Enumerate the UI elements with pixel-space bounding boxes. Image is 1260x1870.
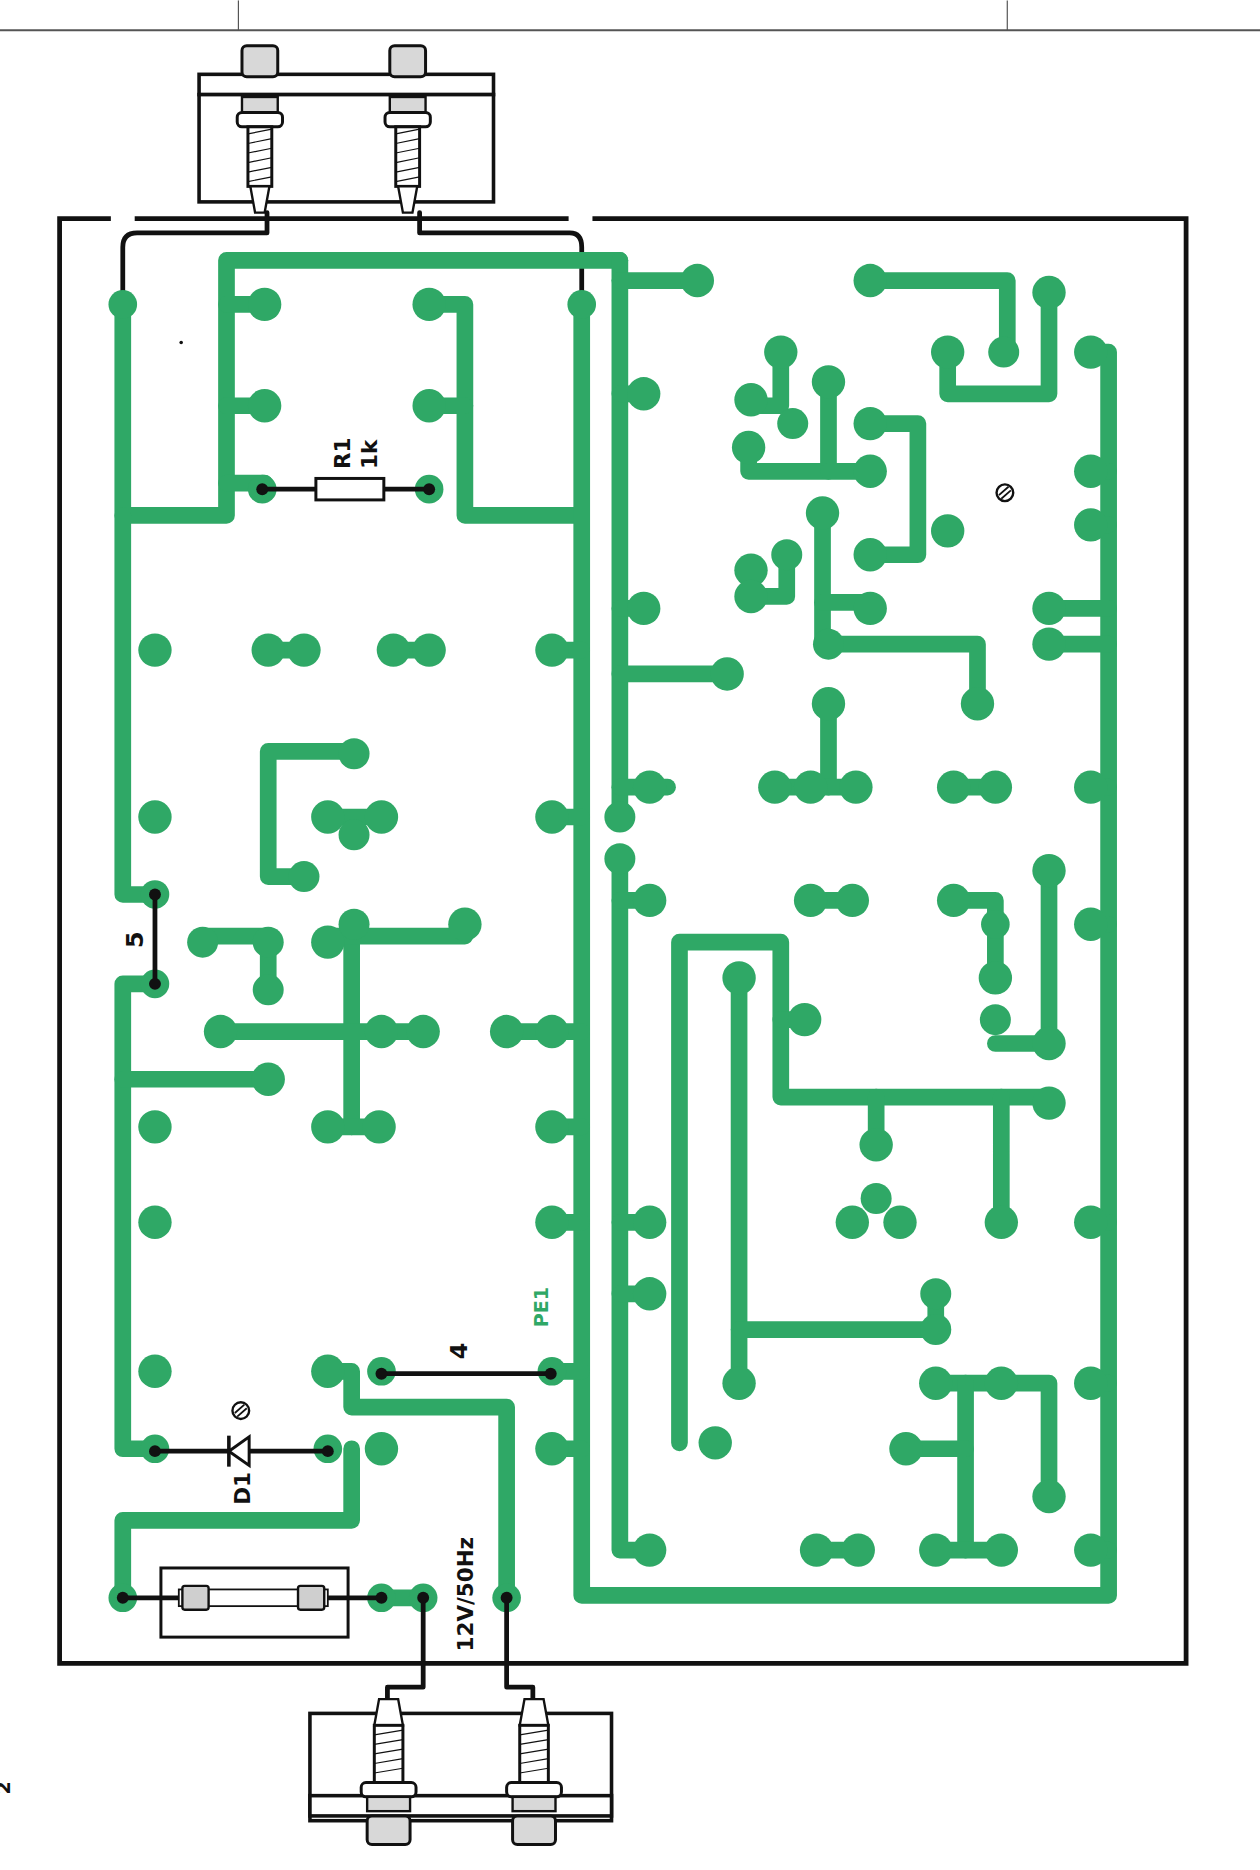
registration-dot <box>179 341 183 345</box>
pcb-diagram: R1 1k 5 4 PE1 D1 <box>0 0 1260 1870</box>
jumper-4-label: 4 <box>445 1343 473 1360</box>
top-socket-assembly <box>199 46 493 213</box>
diode-d1: D1 <box>149 1402 334 1505</box>
pe1-label: PE1 <box>530 1287 552 1327</box>
r1-value-label: 1k <box>357 439 382 469</box>
page-frame <box>0 0 1260 30</box>
fuse-holder <box>117 1568 388 1637</box>
bottom-socket-assembly <box>310 1699 612 1844</box>
page-number: 2 <box>0 1781 14 1794</box>
d1-ref-label: D1 <box>230 1472 255 1505</box>
power-input-label: 12V/50Hz <box>453 1537 478 1652</box>
jumper-5: 5 <box>121 889 161 990</box>
jumper-5-label: 5 <box>121 932 149 949</box>
resistor-r1: R1 1k <box>256 437 435 499</box>
r1-ref-label: R1 <box>330 437 355 468</box>
jumper-4: 4 <box>375 1343 556 1380</box>
d1-polarity-mark-icon <box>232 1402 249 1419</box>
polarity-mark-icon <box>997 484 1014 501</box>
